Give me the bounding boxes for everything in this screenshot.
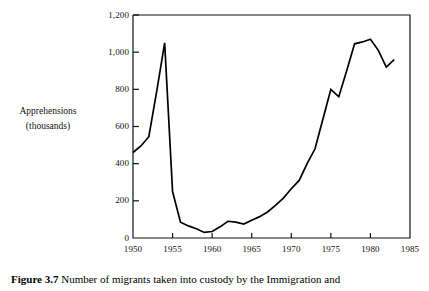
axis-frame [133, 15, 410, 238]
data-series-group [133, 39, 394, 232]
figure-caption-label: Figure 3.7 [11, 273, 58, 285]
figure-container: Apprehensions (thousands) 02004006008001… [0, 0, 429, 291]
data-series-line [133, 39, 394, 232]
figure-caption-text: Number of migrants taken into custody by… [61, 273, 340, 285]
x-axis-ticks [173, 233, 371, 238]
axis-frame-box [133, 15, 410, 238]
line-chart-plot [0, 0, 429, 291]
figure-caption: Figure 3.7 Number of migrants taken into… [11, 272, 423, 286]
y-axis-ticks [133, 15, 139, 201]
